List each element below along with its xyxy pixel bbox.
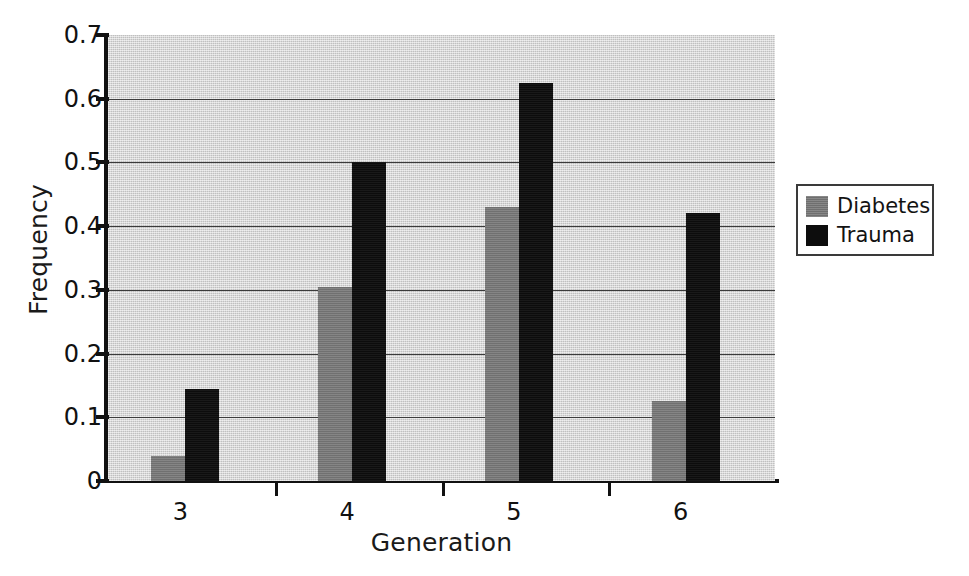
y-tick-mark: [96, 97, 109, 101]
x-tick-label: 5: [484, 498, 544, 526]
bar-trauma-6: [686, 213, 720, 481]
gridline: [108, 290, 775, 291]
bar-diabetes-5: [485, 207, 519, 481]
x-axis-title: Generation: [108, 528, 775, 557]
y-axis-tick-labels: 00.10.20.30.40.50.60.7: [40, 0, 102, 576]
gridline: [108, 99, 775, 100]
legend-item-trauma: Trauma: [806, 221, 924, 250]
bar-trauma-3: [185, 389, 219, 481]
y-tick-label: 0.7: [44, 23, 102, 47]
bar-diabetes-3: [151, 456, 185, 481]
legend-item-diabetes: Diabetes: [806, 192, 924, 221]
bar-chart-figure: Frequency 00.10.20.30.40.50.60.7 3456 Ge…: [0, 0, 969, 576]
bar-diabetes-6: [652, 401, 686, 481]
y-tick-label: 0.6: [44, 87, 102, 111]
y-tick-mark: [96, 224, 109, 228]
bar-trauma-5: [519, 83, 553, 481]
bar-trauma-4: [352, 162, 386, 481]
y-tick-label: 0.3: [44, 278, 102, 302]
bar-diabetes-4: [318, 287, 352, 481]
y-tick-label: 0.4: [44, 214, 102, 238]
legend-label: Trauma: [837, 225, 915, 246]
y-tick-label: 0.5: [44, 150, 102, 174]
y-tick-mark: [96, 479, 109, 483]
y-tick-mark: [96, 33, 109, 37]
gridline: [108, 354, 775, 355]
gridline: [108, 226, 775, 227]
y-tick-label: 0.1: [44, 405, 102, 429]
chart-legend: DiabetesTrauma: [796, 184, 934, 256]
x-tick-mark: [442, 483, 445, 496]
x-tick-label: 4: [317, 498, 377, 526]
x-tick-mark: [275, 483, 278, 496]
y-tick-label: 0.2: [44, 342, 102, 366]
plot-area: [108, 35, 775, 481]
gridline: [108, 162, 775, 163]
legend-swatch-trauma: [806, 225, 828, 246]
y-tick-mark: [96, 160, 109, 164]
x-tick-label: 3: [150, 498, 210, 526]
x-tick-mark: [608, 483, 611, 496]
y-tick-mark: [96, 352, 109, 356]
y-tick-label: 0: [44, 469, 102, 493]
legend-swatch-diabetes: [806, 196, 828, 217]
y-tick-mark: [96, 415, 109, 419]
y-tick-mark: [96, 288, 109, 292]
x-tick-label: 6: [651, 498, 711, 526]
legend-label: Diabetes: [837, 196, 930, 217]
